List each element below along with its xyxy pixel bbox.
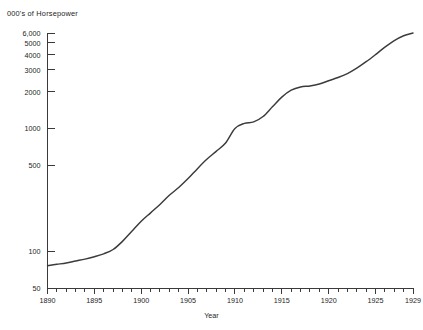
horsepower-line-chart: 000's of Horsepower Year 501005001000200… bbox=[0, 0, 423, 330]
data-series bbox=[48, 33, 414, 266]
plot-area bbox=[0, 0, 423, 330]
axes bbox=[48, 33, 414, 289]
series-line-horsepower bbox=[48, 33, 414, 266]
